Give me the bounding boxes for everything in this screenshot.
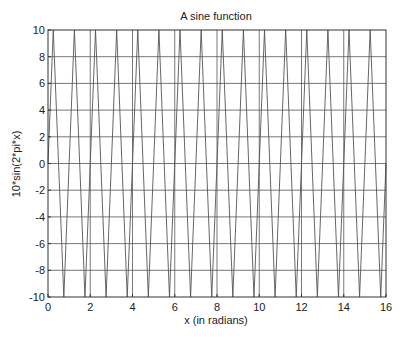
y-tick-label: -8 — [35, 264, 45, 276]
y-tick-label: 6 — [39, 77, 45, 89]
y-tick-label: 8 — [39, 51, 45, 63]
y-tick-label: -6 — [35, 238, 45, 250]
x-tick-label: 14 — [338, 301, 350, 313]
x-tick-label: 16 — [380, 301, 392, 313]
x-tick-label: 0 — [45, 301, 51, 313]
y-tick-label: 10 — [33, 24, 45, 36]
x-tick-label: 4 — [129, 301, 135, 313]
chart-title: A sine function — [180, 10, 252, 22]
figure: 0246810121416-10-8-6-4-20246810 A sine f… — [0, 0, 402, 342]
x-tick-label: 6 — [172, 301, 178, 313]
sine-plot: 0246810121416-10-8-6-4-20246810 A sine f… — [0, 0, 402, 342]
y-tick-label: 4 — [39, 104, 45, 116]
y-tick-label: 2 — [39, 131, 45, 143]
y-tick-label: -10 — [29, 291, 45, 303]
y-tick-label: -4 — [35, 211, 45, 223]
y-axis-label: 10*sin(2*pi*x) — [10, 131, 22, 198]
x-tick-label: 8 — [214, 301, 220, 313]
x-axis-label: x (in radians) — [184, 314, 248, 326]
x-tick-label: 10 — [253, 301, 265, 313]
x-tick-label: 2 — [87, 301, 93, 313]
y-tick-label: 0 — [39, 158, 45, 170]
x-tick-label: 12 — [295, 301, 307, 313]
y-tick-label: -2 — [35, 184, 45, 196]
